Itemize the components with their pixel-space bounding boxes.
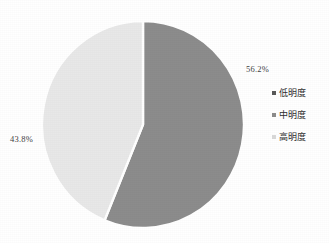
legend-item-2[interactable]: 高明度: [272, 126, 326, 148]
legend-item-0[interactable]: 低明度: [272, 82, 326, 104]
legend-label-1: 中明度: [279, 111, 306, 120]
legend-item-1[interactable]: 中明度: [272, 104, 326, 126]
figure-caption: [0, 236, 329, 243]
chart-legend: 低明度 中明度 高明度: [272, 82, 326, 148]
legend-swatch-icon-2: [272, 135, 276, 139]
legend-swatch-icon-0: [272, 91, 276, 95]
legend-swatch-icon-1: [272, 113, 276, 117]
pie-chart-graphic: [42, 21, 244, 228]
legend-label-0: 低明度: [279, 89, 306, 98]
pie-value-label-0: 56.2%: [246, 64, 269, 74]
pie-chart-figure: 56.2% 43.8% 低明度 中明度 高明度: [0, 0, 329, 243]
legend-label-2: 高明度: [279, 133, 306, 142]
pie-chart-plot-area: [42, 21, 244, 228]
pie-value-label-1: 43.8%: [10, 134, 33, 144]
